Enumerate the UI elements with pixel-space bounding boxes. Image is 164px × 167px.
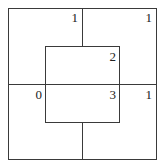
- horizontal-divider: [8, 84, 157, 85]
- label-bottom-left-quadrant: 0: [30, 88, 42, 101]
- vertical-divider-top: [82, 8, 83, 46]
- vertical-divider-bottom: [82, 122, 83, 160]
- label-bottom-right-quadrant: 1: [140, 88, 152, 101]
- label-top-left-quadrant: 1: [66, 11, 78, 24]
- inner-square-top-edge: [45, 46, 120, 47]
- label-inner-top-half: 2: [104, 50, 116, 63]
- overlapping-squares-diagram: 1 1 2 0 3 1: [0, 0, 164, 167]
- label-inner-bottom-half: 3: [104, 88, 116, 101]
- inner-square-bottom-edge: [45, 122, 120, 123]
- inner-square-right-edge: [119, 46, 120, 123]
- inner-square-left-edge: [45, 46, 46, 123]
- label-top-right-quadrant: 1: [140, 11, 152, 24]
